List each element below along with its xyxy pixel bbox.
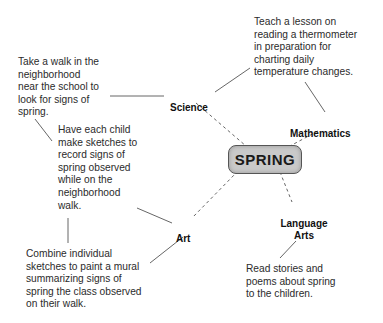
activity-note-mural: Combine individual sketches to paint a m… (26, 248, 142, 311)
spring-web-diagram: SPRING Science Mathematics Language Arts… (0, 0, 383, 323)
subject-label: Art (176, 233, 190, 244)
subject-node-science: Science (170, 90, 208, 114)
center-label: SPRING (235, 151, 296, 168)
connector-language-center (280, 172, 292, 202)
center-node-spring: SPRING (228, 145, 302, 174)
subject-node-mathematics: Mathematics (290, 116, 351, 140)
connector-thermometer-science (215, 68, 250, 92)
subject-label: Mathematics (290, 128, 351, 139)
subject-label: Language Arts (280, 218, 327, 241)
connector-sketches-art (137, 208, 172, 223)
activity-note-stories: Read stories and poems about spring to t… (246, 263, 335, 301)
connector-art-center (192, 171, 238, 218)
activity-note-thermometer: Teach a lesson on reading a thermometer … (254, 16, 357, 79)
connector-thermometer-math (305, 82, 325, 112)
subject-node-art: Art (176, 221, 190, 245)
activity-note-walk: Take a walk in the neighborhood near the… (18, 56, 99, 119)
connector-walk-sketches (35, 119, 52, 141)
subject-node-language-arts: Language Arts (274, 206, 334, 242)
subject-label: Science (170, 102, 208, 113)
activity-note-sketches: Have each child make sketches to record … (58, 124, 137, 212)
connector-stories-language (280, 241, 296, 258)
